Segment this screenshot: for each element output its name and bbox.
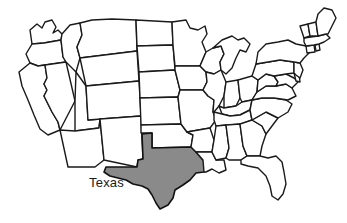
state-new-mexico[interactable] [100, 116, 143, 167]
state-maine[interactable] [316, 8, 336, 36]
state-wyoming[interactable] [80, 51, 139, 86]
state-florida[interactable] [241, 156, 286, 200]
state-indiana[interactable] [224, 80, 240, 108]
map-label-texas: Texas [89, 176, 124, 189]
state-iowa[interactable] [175, 66, 207, 90]
state-colorado[interactable] [86, 81, 141, 120]
state-north-dakota[interactable] [136, 20, 173, 46]
united-states-map-svg [0, 0, 347, 223]
state-kansas[interactable] [140, 97, 181, 125]
state-new-york[interactable] [256, 40, 310, 64]
state-minnesota[interactable] [172, 20, 207, 66]
state-nebraska[interactable] [139, 70, 180, 98]
state-south-dakota[interactable] [137, 45, 175, 72]
us-map-figure: Texas [0, 0, 347, 223]
state-oregon[interactable] [26, 40, 66, 66]
